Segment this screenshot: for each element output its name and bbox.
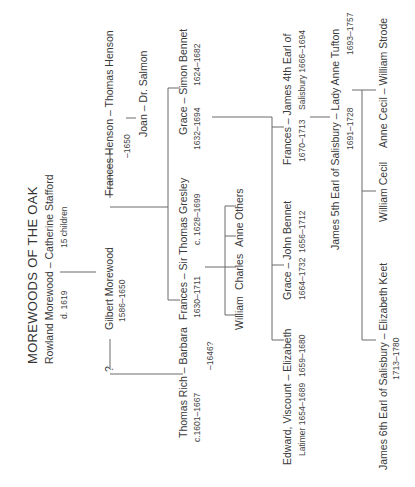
children-count-note: 15 children [60,206,69,248]
child-anne: Anne [234,222,245,247]
child-others: Others [234,188,245,220]
grace-simon-bennet: Grace – Simon Bennet [178,29,189,135]
anne-cecil-william-strode: Anne Cecil – William Strode [378,18,389,148]
unknown-parent: ? [104,366,115,372]
james-5th-earl-couple: James 5th Earl of Salisbury – Lady Anne … [330,29,341,250]
frances-gresley-dates: 1630–1711 [193,276,202,318]
lady-anne-tufton-dates: 1693–1757 [346,12,355,55]
james-4th-earl-dates: Salisbury 1666–1694 [298,30,307,110]
frances-salisbury-dates: 1670–1713 [298,119,307,162]
rowland-dates: d. 1619 [60,291,69,319]
elizabeth-dates: 1659–1680 [298,334,307,377]
thomas-rich-barbara: Thomas Rich – Barbara [178,327,189,438]
frances-gresley-couple: Frances – Sir Thomas Gresley [178,178,189,320]
john-bennet-dates: 1656–1712 [298,210,307,253]
james-6th-earl-couple: James 6th Earl of Salisbury – Elizabeth … [378,263,389,470]
frances-henson-dates: –1650 [123,134,132,158]
gilbert-morewood: Gilbert Morewood [104,247,115,330]
edward-elizabeth-couple: Edward, Viscount – Elizabeth [282,329,293,465]
grace-bennet-dates: 1664–1732 [298,257,307,300]
william-cecil: William Cecil [378,162,389,222]
frances-thomas-henson: Frances Henson – Thomas Henson [104,30,115,196]
grace-john-bennet: Grace – John Bennet [282,201,293,300]
child-charles: Charles [234,254,245,290]
joan-dr-salmon: Joan – Dr. Salmon [138,51,149,137]
simon-dates: 1624–1682 [193,43,202,86]
gilbert-dates: 1586–1650 [118,279,127,322]
rowland-catherine-couple: Rowland Morewood – Catherine Stafford [44,175,55,365]
child-william: William [234,296,245,330]
james-5th-earl-dates: 1691–1728 [346,107,355,150]
barbara-dates: –1646? [206,342,215,370]
grace-dates: 1632–1694 [193,107,202,150]
frances-james-couple: Frances – James 4th Earl of [282,34,293,165]
thomas-rich-dates: c.1601–1667 [193,393,202,442]
edward-dates: Latimer 1654–1689 [298,383,307,456]
thomas-gresley-dates: c. 1628–1699 [193,193,202,245]
james-6th-earl-dates: 1713–1780 [392,337,401,380]
diagram-title: MOREWOODS OF THE OAK [26,186,39,364]
